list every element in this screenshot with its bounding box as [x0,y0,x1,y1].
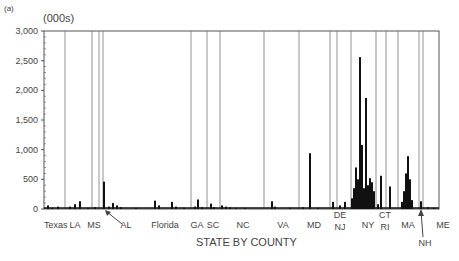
bar-ma [405,173,407,209]
bar-sc [213,207,215,209]
bar-ct [377,204,379,209]
bar-ny [367,185,369,209]
state-label-ri: RI [381,222,390,232]
bar-nc [235,208,237,209]
state-label-me: ME [436,220,450,230]
bar-sc [210,204,212,209]
y-tick-label: 500 [23,174,38,184]
bar-florida [171,202,173,209]
state-label-de: DE [334,210,347,220]
bar-florida [154,201,156,209]
bar-la [74,204,76,209]
bar-ny [353,188,355,209]
y-tick-label: 1,000 [15,145,38,155]
bar-nh [420,201,422,209]
y-tick-label: 0 [33,204,38,214]
bar-me [427,207,429,209]
bar-va [289,208,291,209]
arrow-al [107,212,122,224]
state-label-ny: NY [362,220,375,230]
y-tick-label: 3,000 [15,26,38,36]
bar-florida [135,208,137,209]
state-label-ma: MA [401,220,415,230]
bar-ga [201,207,203,209]
state-label-nc: NC [237,220,250,230]
bar-ny [371,182,373,209]
arrow-head-nh [418,209,424,216]
bar-ny [373,191,375,209]
y-tick-label: 1,500 [15,115,38,125]
state-label-al: AL [120,220,131,230]
state-label-ct: CT [379,210,391,220]
state-label-va: VA [277,220,288,230]
state-label-florida: Florida [151,220,179,230]
panel-label: (a) [4,4,14,13]
bar-ny [365,98,367,209]
bar-nj [339,205,341,209]
bar-va [274,207,276,209]
bar-ma [401,202,403,209]
bar-ny [369,178,371,209]
state-label-nj: NJ [335,222,346,232]
bar-ms [87,208,89,209]
bar-nc [221,205,223,209]
bar-ny [359,57,361,209]
bar-florida [175,207,177,209]
bar-al [108,207,110,209]
bar-al [103,182,105,209]
state-label-la: LA [69,220,80,230]
bar-md [302,207,304,209]
bar-florida [158,205,160,209]
state-label-sc: SC [207,220,220,230]
bar-md [309,153,311,209]
y-tick-label: 2,000 [15,85,38,95]
bar-ms [94,207,96,209]
bar-de [332,202,334,209]
state-label-texas: Texas [44,220,68,230]
bar-ma [403,191,405,209]
bar-va [271,201,273,209]
bar-md [317,208,319,209]
bar-al [120,207,122,209]
bar-la [69,207,71,209]
bar-ny [361,145,363,209]
bar-ma [411,200,413,209]
bar-chart: 05001,0001,5002,0002,5003,000TexasLAMSAL… [0,0,459,261]
bar-ga [197,200,199,209]
bar-al [112,203,114,209]
bar-texas [51,208,53,209]
x-axis-title: STATE BY COUNTY [196,236,297,248]
bar-me [433,208,435,209]
bar-al [116,205,118,209]
bar-texas [47,205,49,209]
bar-ct [380,176,382,209]
state-label-md: MD [307,220,321,230]
bar-ma [409,179,411,209]
bar-nc [229,207,231,209]
bar-nc [225,207,227,209]
y-axis-label: (000s) [43,12,74,24]
y-tick-label: 2,500 [15,56,38,66]
bar-ny [357,179,359,209]
bar-nj [344,202,346,209]
bar-texas [57,207,59,209]
bar-ny [355,167,357,209]
state-label-ms: MS [87,220,101,230]
bar-florida [183,208,185,209]
bar-la [79,201,81,209]
bar-ny [363,188,365,209]
state-label-ga: GA [190,220,203,230]
state-label-nh: NH [419,238,432,248]
bar-ny [351,198,353,209]
bar-ri [389,186,391,209]
bar-nc [244,208,246,209]
bar-ma [407,156,409,209]
bar-ga [194,207,196,209]
